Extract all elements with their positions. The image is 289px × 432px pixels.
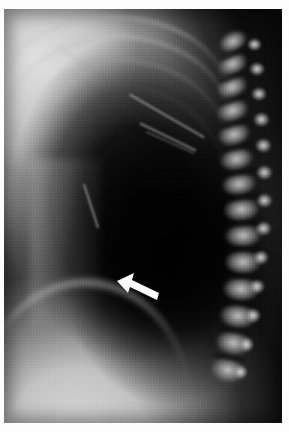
radiograph-figure <box>0 0 289 432</box>
annotation-arrow-icon[interactable] <box>115 272 161 302</box>
radiograph-plate[interactable] <box>4 9 282 423</box>
plate-vignette <box>4 9 282 423</box>
